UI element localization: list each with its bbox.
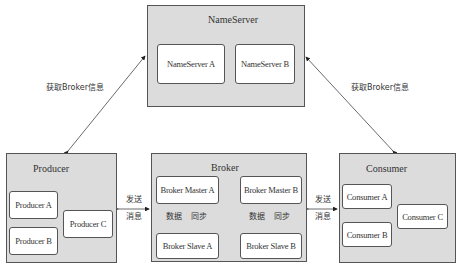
send-msg-right-line2: 消息 bbox=[315, 212, 331, 222]
broker-slave-a-node: Broker Slave A bbox=[156, 233, 219, 259]
producer-c-node: Producer C bbox=[63, 210, 113, 238]
broker-title: Broker bbox=[211, 162, 239, 173]
nameserver-group: NameServer NameServer A NameServer B bbox=[147, 5, 305, 107]
nameserver-a-node: NameServer A bbox=[157, 44, 225, 84]
producer-title: Producer bbox=[33, 163, 69, 174]
broker-master-b-node: Broker Master B bbox=[240, 176, 302, 204]
consumer-title: Consumer bbox=[366, 163, 407, 174]
producer-b-node: Producer B bbox=[9, 227, 58, 255]
send-msg-left-line2: 消息 bbox=[126, 212, 142, 222]
nameserver-b-node: NameServer B bbox=[235, 44, 295, 84]
consumer-a-node: Consumer A bbox=[342, 184, 392, 209]
broker-slave-b-node: Broker Slave B bbox=[240, 233, 302, 259]
broker-master-a-node: Broker Master A bbox=[156, 176, 219, 204]
get-broker-info-left-label: 获取Broker信息 bbox=[46, 83, 104, 93]
get-broker-info-right-label: 获取Broker信息 bbox=[351, 83, 409, 93]
sync-label-b-right: 同步 bbox=[274, 212, 290, 222]
producer-a-node: Producer A bbox=[9, 191, 58, 219]
consumer-group: Consumer Consumer A Consumer B Consumer … bbox=[339, 153, 456, 263]
sync-label-b-left: 数据 bbox=[249, 212, 265, 222]
consumer-b-node: Consumer B bbox=[342, 222, 392, 247]
producer-group: Producer Producer A Producer B Producer … bbox=[6, 153, 117, 263]
sync-label-a-right: 同步 bbox=[191, 212, 207, 222]
nameserver-title: NameServer bbox=[208, 14, 258, 25]
send-msg-right-line1: 发送 bbox=[315, 195, 331, 205]
sync-label-a-left: 数据 bbox=[166, 212, 182, 222]
broker-group: Broker Broker Master A Broker Master B B… bbox=[151, 153, 307, 262]
consumer-c-node: Consumer C bbox=[397, 204, 448, 229]
send-msg-left-line1: 发送 bbox=[126, 195, 142, 205]
